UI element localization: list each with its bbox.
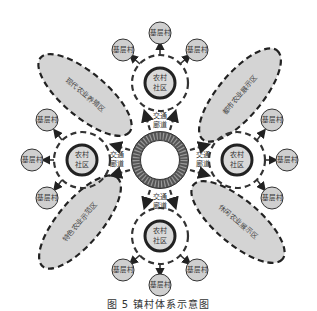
svg-text:农村: 农村 — [153, 73, 167, 82]
svg-text:交通: 交通 — [110, 150, 124, 159]
community-right: 农村 社区 — [222, 145, 252, 175]
svg-text:社区: 社区 — [153, 83, 167, 92]
svg-text:廊道: 廊道 — [196, 159, 210, 168]
svg-text:社区: 社区 — [230, 160, 244, 169]
svg-text:廊道: 廊道 — [153, 120, 167, 129]
svg-text:交通: 交通 — [153, 192, 167, 201]
village-label: 基层村 — [150, 280, 171, 289]
village-label: 基层村 — [262, 115, 283, 124]
svg-text:农村: 农村 — [153, 226, 167, 235]
svg-text:交通: 交通 — [153, 111, 167, 120]
village-label: 基层村 — [150, 28, 171, 37]
village-label: 基层村 — [113, 45, 134, 54]
village-label: 基层村 — [37, 115, 58, 124]
village-label: 基层村 — [113, 265, 134, 274]
village-label: 基层村 — [22, 155, 43, 164]
svg-text:社区: 社区 — [153, 236, 167, 245]
svg-text:社区: 社区 — [75, 160, 89, 169]
svg-text:农村: 农村 — [230, 150, 244, 159]
svg-text:农村: 农村 — [75, 150, 89, 159]
community-bottom: 农村 社区 — [145, 221, 175, 251]
svg-text:交通: 交通 — [196, 150, 210, 159]
corridor-label-right: 交通 廊道 — [196, 150, 210, 168]
corridor-label-left: 交通 廊道 — [110, 150, 124, 168]
village-label: 基层村 — [262, 193, 283, 202]
village-label: 基层村 — [37, 193, 58, 202]
village-label: 基层村 — [187, 45, 208, 54]
center-hub — [132, 132, 189, 189]
community-left: 农村 社区 — [67, 145, 97, 175]
community-top: 农村 社区 — [145, 68, 175, 98]
village-label: 基层村 — [277, 155, 298, 164]
village-label: 基层村 — [187, 265, 208, 274]
figure-caption: 图 5 镇村体系示意图 — [0, 296, 317, 311]
corridor-label-top: 交通 廊道 — [153, 111, 167, 129]
svg-text:廊道: 廊道 — [110, 159, 124, 168]
